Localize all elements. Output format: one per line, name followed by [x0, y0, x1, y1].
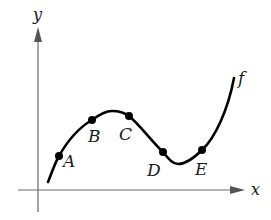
function-label: f	[236, 68, 247, 88]
point-e	[198, 146, 206, 154]
y-axis-arrow-icon	[34, 27, 42, 42]
point-b-label: B	[87, 126, 101, 146]
point-c	[125, 112, 133, 120]
function-graph: y x A B C D E f	[0, 0, 271, 220]
y-axis-label: y	[32, 5, 43, 24]
point-c-label: C	[119, 124, 132, 144]
x-axis-arrow-icon	[230, 186, 245, 194]
point-d-label: D	[146, 160, 161, 180]
point-b	[88, 116, 96, 124]
x-axis-label: x	[251, 180, 260, 199]
point-e-label: E	[194, 159, 208, 179]
point-a	[55, 152, 63, 160]
point-d	[159, 148, 167, 156]
point-a-label: A	[61, 151, 75, 171]
